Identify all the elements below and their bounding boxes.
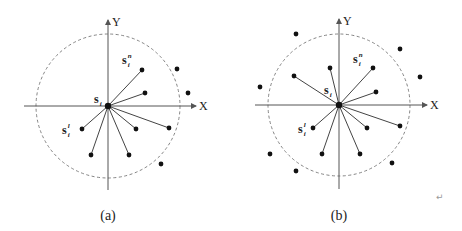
neighbor-link [108,70,142,106]
data-point [328,66,333,71]
point-label: sin [353,51,363,68]
data-point [311,126,316,131]
x-axis-label: X [199,99,208,113]
data-point [390,161,395,166]
center-point [336,102,342,108]
data-point [186,91,191,96]
y-axis-label: Y [343,14,352,28]
data-point [374,90,379,95]
x-axis-label: X [430,98,439,112]
point-label: sil [62,122,70,139]
panel-b: XYsinsilsi [255,14,439,189]
point-label: si [94,92,102,108]
data-point [294,169,299,174]
neighbor-link [294,76,339,105]
data-point [358,152,363,157]
neighbor-link [108,106,129,155]
point-label: sil [298,121,306,138]
data-point [294,32,299,37]
neighbor-link [339,105,360,154]
data-point [143,91,148,96]
data-point [398,47,403,52]
data-point [365,126,370,131]
return-mark-icon: ↵ [436,192,444,202]
neighbor-link [108,106,169,128]
data-point [320,152,325,157]
data-point [418,75,423,80]
neighbor-link [108,106,136,129]
point-label: sin [122,52,132,69]
data-point [80,127,85,132]
neighbor-link [330,68,339,105]
data-point [159,162,164,167]
panel-a: XYsinsilsi [24,15,208,190]
neighbor-link [339,105,400,126]
data-point [292,74,297,79]
point-label: si [324,83,332,99]
data-point [127,153,132,158]
caption-b: (b) [331,208,348,224]
neighbor-link [339,105,367,128]
caption-a: (a) [100,208,116,224]
data-point [167,126,172,131]
data-point [398,124,403,129]
data-point [371,66,376,71]
data-point [140,68,145,73]
figure-canvas: XYsinsilsi XYsinsilsi (a) (b) ↵ [0,0,462,231]
y-axis-label: Y [112,15,121,29]
center-point [105,103,111,109]
data-point [258,85,263,90]
data-point [134,127,139,132]
data-point [268,152,273,157]
data-point [89,153,94,158]
data-point [175,67,180,72]
